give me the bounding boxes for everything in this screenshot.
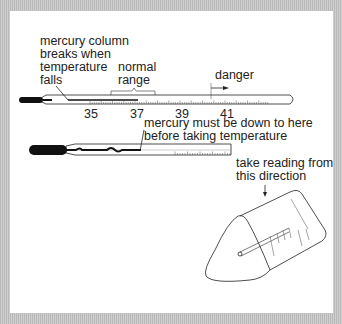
scale-ticks bbox=[90, 101, 268, 105]
danger-arrowhead bbox=[223, 86, 229, 90]
reading-direction-arrowhead bbox=[263, 192, 267, 197]
reading-direction-line-1: take reading from bbox=[236, 156, 333, 170]
normal-range-bracket bbox=[111, 88, 155, 95]
shake-down-line-1: mercury must be down to here bbox=[144, 116, 313, 130]
mercury-break-label: mercury column breaks when temperature f… bbox=[40, 34, 129, 87]
mercury-break-line-4: falls bbox=[40, 73, 62, 87]
mercury-column-2 bbox=[66, 148, 140, 152]
normal-range-line-1: normal bbox=[118, 60, 156, 74]
cross-section-scale bbox=[270, 199, 309, 256]
mercury-break-line-2: breaks when bbox=[40, 47, 111, 61]
danger-label: danger bbox=[215, 68, 254, 82]
thermometer-bulb-2 bbox=[29, 145, 67, 155]
thermometer-cross-section bbox=[205, 190, 326, 281]
thermometer-diagram: mercury column breaks when temperature f… bbox=[0, 0, 342, 324]
capillary-bore bbox=[240, 228, 289, 252]
prism-end-face bbox=[205, 216, 270, 282]
reading-direction-line-2: this direction bbox=[236, 169, 306, 183]
thermometer-bulb bbox=[19, 97, 43, 103]
normal-range-line-2: range bbox=[118, 73, 150, 87]
mercury-break-line-3: temperature bbox=[40, 60, 107, 74]
scale-ticks-2 bbox=[175, 152, 230, 156]
mercury-break-leader bbox=[56, 86, 68, 100]
capillary-end bbox=[238, 252, 242, 256]
mercury-break-line-1: mercury column bbox=[40, 34, 129, 48]
shake-down-line-2: before taking temperature bbox=[144, 129, 287, 143]
tick-label-37: 37 bbox=[130, 107, 144, 121]
thermometer-bottom bbox=[29, 144, 231, 155]
tick-label-35: 35 bbox=[84, 107, 98, 121]
normal-range-label: normal range bbox=[118, 60, 156, 87]
capillary-bore-lower bbox=[241, 232, 289, 256]
